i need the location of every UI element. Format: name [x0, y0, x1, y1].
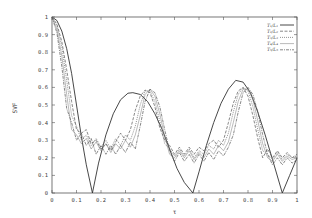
- series-line-2: [52, 17, 297, 158]
- x-tick-label: 0.2: [96, 197, 106, 203]
- y-axis-label: SVF: [11, 102, 18, 113]
- line-chart: 00.10.20.30.40.50.60.70.80.9100.10.20.30…: [0, 0, 312, 218]
- legend-label: T₄/L₄: [267, 41, 278, 46]
- y-tick-label: 0.7: [38, 67, 48, 73]
- y-tick-label: 0.6: [38, 84, 48, 90]
- x-tick-label: 0.6: [194, 197, 204, 203]
- y-tick-label: 0: [45, 190, 48, 196]
- legend-label: T₂/L₂: [267, 29, 278, 34]
- x-tick-label: 1: [295, 197, 298, 203]
- series-line-1: [52, 17, 297, 193]
- x-tick-label: 0.5: [170, 197, 180, 203]
- x-tick-label: 0.9: [268, 197, 278, 203]
- y-tick-label: 1: [45, 14, 48, 20]
- legend-label: T₃/L₃: [267, 35, 278, 40]
- y-tick-label: 0.8: [38, 49, 48, 55]
- series-line-3: [52, 17, 297, 160]
- x-axis-label: τ: [173, 208, 177, 215]
- y-tick-label: 0.4: [38, 120, 49, 126]
- data-series: [52, 17, 297, 193]
- x-tick-label: 0.3: [121, 197, 131, 203]
- x-tick-label: 0.1: [72, 197, 82, 203]
- y-tick-label: 0.3: [38, 137, 48, 143]
- legend: T₁/L₁T₂/L₂T₃/L₃T₄/L₄T₅/L₅: [267, 23, 294, 53]
- x-tick-label: 0.4: [145, 197, 156, 203]
- y-tick-label: 0.1: [38, 172, 48, 178]
- plot-border: [52, 17, 297, 193]
- y-tick-label: 0.5: [38, 102, 48, 108]
- x-tick-label: 0: [50, 197, 53, 203]
- x-tick-label: 0.7: [219, 197, 229, 203]
- y-tick-label: 0.9: [38, 32, 48, 38]
- y-tick-label: 0.2: [38, 155, 48, 161]
- legend-label: T₁/L₁: [267, 23, 278, 28]
- series-line-5: [52, 17, 297, 165]
- plot-frame: [52, 17, 297, 193]
- legend-label: T₅/L₅: [267, 47, 278, 52]
- x-tick-label: 0.8: [243, 197, 253, 203]
